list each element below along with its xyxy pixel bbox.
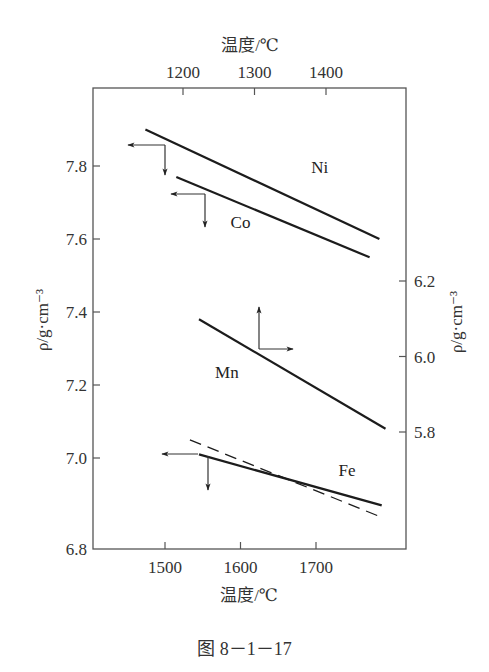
- left-tick-label: 7.6: [66, 230, 87, 249]
- top-axis-ticks: 120013001400: [166, 63, 343, 95]
- left-tick-label: 7.0: [66, 449, 87, 468]
- right-tick-label: 5.8: [414, 423, 435, 442]
- axis-indicator-co: [171, 194, 205, 227]
- right-tick-label: 6.0: [414, 348, 435, 367]
- series-label-ni: Ni: [311, 158, 328, 177]
- series-lines: [145, 130, 385, 517]
- top-tick-label: 1300: [238, 63, 272, 82]
- left-tick-label: 7.4: [66, 303, 88, 322]
- left-axis-title: ρ/g·cm⁻³: [33, 289, 52, 351]
- bottom-tick-label: 1500: [148, 558, 182, 577]
- bottom-tick-label: 1600: [224, 558, 258, 577]
- series-label-fe: Fe: [338, 461, 355, 480]
- left-axis-label: ρ/g·cm⁻³: [33, 289, 52, 351]
- right-axis-ticks: 5.86.06.2: [399, 272, 435, 442]
- bottom-axis-ticks: 150016001700: [148, 542, 333, 577]
- top-tick-label: 1200: [166, 63, 200, 82]
- right-tick-label: 6.2: [414, 272, 435, 291]
- right-axis-title: ρ/g·cm⁻³: [447, 291, 466, 353]
- axis-indicator-fe: [162, 454, 208, 490]
- right-axis-label: ρ/g·cm⁻³: [447, 291, 466, 353]
- left-tick-label: 7.2: [66, 376, 87, 395]
- top-axis-title: 温度/℃: [221, 36, 279, 55]
- density-temperature-chart: 温度/℃ 120013001400 150016001700 温度/℃ 6.87…: [0, 0, 489, 672]
- top-axis-label: 温度/℃: [221, 36, 279, 55]
- bottom-tick-label: 1700: [299, 558, 333, 577]
- figure-caption: 图 8－1－17: [0, 634, 489, 660]
- left-axis-ticks: 6.87.07.27.47.67.8: [66, 157, 100, 559]
- top-tick-label: 1400: [309, 63, 343, 82]
- series-label-mn: Mn: [215, 363, 239, 382]
- left-tick-label: 7.8: [66, 157, 87, 176]
- plot-frame: [93, 88, 406, 549]
- bottom-axis-label: 温度/℃: [220, 586, 278, 605]
- left-tick-label: 6.8: [66, 540, 87, 559]
- series-labels: NiCoMnFe: [215, 158, 355, 480]
- series-line-ni: [145, 130, 379, 240]
- axis-indicator-mn: [259, 307, 293, 349]
- bottom-axis-title: 温度/℃: [220, 586, 278, 605]
- series-label-co: Co: [231, 213, 251, 232]
- axis-indicator-ni: [128, 145, 165, 175]
